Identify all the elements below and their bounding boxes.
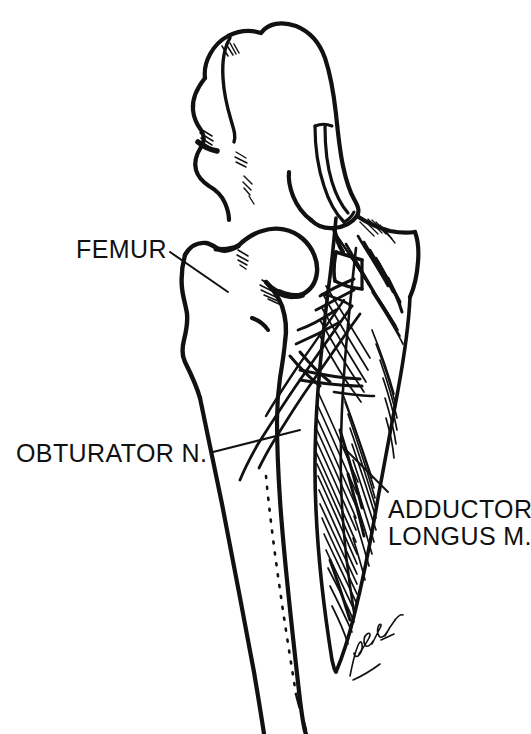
label-adductor-line2: LONGUS M. (388, 522, 531, 550)
label-adductor-longus: ADDUCTORLONGUS M. (388, 496, 531, 550)
figure-background (0, 0, 531, 734)
anatomy-illustration (0, 0, 531, 734)
label-femur: FEMUR (76, 236, 167, 263)
anatomy-figure: FEMUR OBTURATOR N. ADDUCTORLONGUS M. (0, 0, 531, 734)
label-adductor-line1: ADDUCTOR (388, 495, 531, 523)
label-obturator-nerve: OBTURATOR N. (16, 440, 207, 467)
